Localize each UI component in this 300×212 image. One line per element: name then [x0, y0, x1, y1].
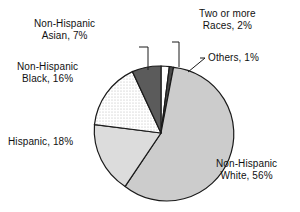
slice-label-two-or-more-races: Two or more Races, 2%: [199, 8, 256, 31]
slice-label-non-hispanic-black: Non-Hispanic Black, 16%: [17, 61, 78, 84]
slice-label-line2: Races, 2%: [199, 20, 256, 32]
pie-chart: Non-Hispanic Asian, 7% Non-Hispanic Blac…: [0, 0, 300, 212]
slice-label-line1: Non-Hispanic: [34, 18, 95, 29]
slice-label-hispanic: Hispanic, 18%: [8, 136, 73, 148]
slice-label-line2: White, 56%: [216, 170, 277, 182]
slice-label-line2: Black, 16%: [17, 73, 78, 85]
slice-label-non-hispanic-asian: Non-Hispanic Asian, 7%: [34, 18, 95, 41]
slice-label-line1: Non-Hispanic: [17, 61, 78, 72]
slice-label-line1: Non-Hispanic: [216, 158, 277, 169]
slice-label-line1: Others, 1%: [208, 52, 259, 63]
slice-label-others: Others, 1%: [208, 52, 259, 64]
leader-line-others: [188, 58, 205, 72]
leader-line-two-or-more-races: [172, 42, 179, 67]
slice-label-non-hispanic-white: Non-Hispanic White, 56%: [216, 158, 277, 181]
slice-label-line1: Two or more: [199, 8, 256, 19]
leader-guide-spacer: [179, 42, 207, 67]
slice-label-line2: Asian, 7%: [34, 30, 95, 42]
slice-label-line1: Hispanic, 18%: [8, 136, 73, 147]
